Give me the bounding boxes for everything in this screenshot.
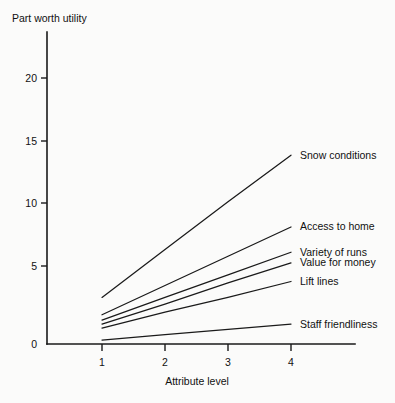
series-label-access-to-home: Access to home (300, 220, 375, 232)
series-group (102, 155, 291, 340)
x-axis-title: Attribute level (165, 375, 229, 387)
series-label-value-for-money: Value for money (300, 256, 376, 268)
series-label-staff-friendliness: Staff friendliness (300, 318, 377, 330)
x-tick-label-3: 3 (225, 356, 231, 368)
series-line-variety-of-runs (102, 252, 291, 320)
series-line-lift-lines (102, 281, 291, 328)
y-tick-label-20: 20 (25, 72, 37, 84)
x-tick-label-4: 4 (288, 356, 294, 368)
series-label-lift-lines: Lift lines (300, 275, 339, 287)
y-tick-label-15: 15 (25, 135, 37, 147)
x-axis-ticks: 1 2 3 4 (99, 344, 294, 368)
y-tick-label-5: 5 (31, 260, 37, 272)
series-line-value-for-money (102, 263, 291, 324)
y-axis-ticks: 20 15 10 5 0 (25, 72, 47, 350)
x-tick-label-1: 1 (99, 356, 105, 368)
series-line-access-to-home (102, 227, 291, 315)
y-tick-label-0: 0 (31, 338, 37, 350)
chart-figure: Part worth utility 20 15 10 5 0 1 2 3 (0, 0, 395, 403)
series-line-snow-conditions (102, 155, 291, 297)
x-tick-label-2: 2 (162, 356, 168, 368)
y-axis-title: Part worth utility (12, 12, 87, 24)
part-worth-utility-line-chart: Part worth utility 20 15 10 5 0 1 2 3 (0, 0, 395, 403)
series-label-snow-conditions: Snow conditions (300, 149, 376, 161)
series-line-staff-friendliness (102, 324, 291, 340)
series-label-group: Snow conditionsAccess to homeVariety of … (300, 149, 377, 330)
y-tick-label-10: 10 (25, 197, 37, 209)
